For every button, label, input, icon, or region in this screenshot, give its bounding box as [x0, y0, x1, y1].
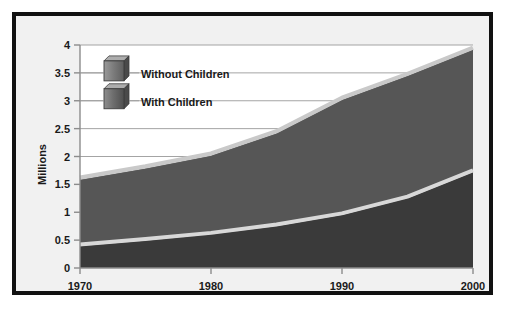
legend-label: Without Children — [141, 68, 230, 80]
y-tick-label: 3 — [64, 95, 70, 107]
x-tick-label: 1980 — [199, 280, 223, 291]
area-chart: 00.511.522.533.541970198019902000Million… — [16, 16, 489, 291]
legend-label: With Children — [141, 96, 213, 108]
chart-figure: 00.511.522.533.541970198019902000Million… — [0, 0, 507, 312]
y-tick-label: 1 — [64, 206, 70, 218]
y-tick-label: 3.5 — [55, 67, 70, 79]
y-tick-label: 2.5 — [55, 123, 70, 135]
cube-icon-side — [124, 56, 129, 81]
chart-svg: 00.511.522.533.541970198019902000Million… — [16, 16, 489, 291]
y-tick-label: 1.5 — [55, 178, 70, 190]
x-tick-label: 1970 — [68, 280, 92, 291]
cube-icon-face — [104, 89, 124, 109]
x-axis: 1970198019902000 — [68, 268, 485, 291]
y-tick-label: 4 — [64, 39, 71, 51]
x-tick-label: 2000 — [461, 280, 485, 291]
chart-frame: 00.511.522.533.541970198019902000Million… — [12, 12, 493, 295]
y-tick-label: 0 — [64, 262, 70, 274]
x-tick-label: 1990 — [330, 280, 354, 291]
y-axis-title: Millions — [36, 144, 48, 185]
y-axis: 00.511.522.533.54 — [55, 39, 80, 274]
y-tick-label: 0.5 — [55, 234, 70, 246]
y-tick-label: 2 — [64, 151, 70, 163]
cube-icon-side — [124, 84, 129, 109]
cube-icon-face — [104, 61, 124, 81]
